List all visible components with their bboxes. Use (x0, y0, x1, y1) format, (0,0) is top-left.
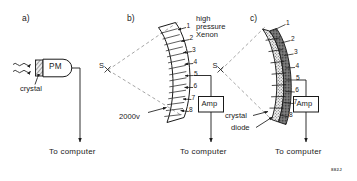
source-marker-c: S (213, 62, 218, 70)
figure-canvas: a) PM crystal To computer b) S high pres… (0, 0, 357, 181)
channel-label-b-2: 2 (190, 35, 194, 42)
source-marker-b-ticks (105, 67, 111, 73)
source-marker-c-ticks (218, 67, 224, 73)
channel-label-b-1: 1 (187, 23, 191, 30)
xray-beam-icon (13, 63, 31, 72)
output-label-a: To computer (49, 148, 96, 156)
channel-label-b-7: 7 (192, 95, 196, 102)
fan-beam-c (221, 26, 270, 118)
panel-label-a: a) (22, 14, 30, 23)
xenon-chamber-cap-bottom (167, 118, 184, 123)
channel-label-c-1: 1 (286, 20, 290, 27)
panel-b-graphics (105, 22, 224, 142)
crystal-block (36, 60, 44, 76)
channel-label-b-8: 8 (189, 107, 193, 114)
xenon-chamber-inner-wall (159, 28, 174, 123)
bias-lead-b (148, 108, 167, 113)
channel-label-c-4: 4 (296, 63, 300, 70)
channel-label-c-6: 6 (295, 87, 299, 94)
crystal-leader-c (253, 112, 268, 116)
output-label-c: To computer (275, 148, 322, 156)
photomultiplier-label: PM (49, 63, 62, 72)
crystal-label-a: crystal (20, 85, 42, 93)
xenon-septa-plates (161, 29, 187, 117)
diode-leader-c (256, 117, 273, 128)
channel-label-b-3: 3 (192, 47, 196, 54)
source-marker-b: S (99, 62, 104, 70)
channel-label-c-5: 5 (296, 75, 300, 82)
panel-a-graphics (13, 59, 80, 142)
channel-label-b-6: 6 (194, 83, 198, 90)
bias-voltage-label: 2000v (119, 113, 140, 121)
channel-label-b-5: 5 (194, 71, 198, 78)
crystal-label-c: crystal (225, 112, 247, 120)
panel-label-c: c) (250, 14, 257, 23)
gas-label-line-3: Xenon (196, 31, 218, 39)
amplifier-label-c: Amp (297, 100, 313, 108)
diode-label-c: diode (231, 124, 250, 132)
channel-label-c-8: 8 (289, 112, 293, 119)
panel-label-b: b) (127, 14, 135, 23)
amplifier-label-b: Amp (202, 100, 218, 108)
channel-label-c-3: 3 (294, 49, 298, 56)
figure-id-code: 882J (331, 168, 342, 173)
xenon-chamber-cap-top (159, 23, 176, 28)
channel-label-b-4: 4 (194, 59, 198, 66)
channel-label-c-2: 2 (291, 36, 295, 43)
output-label-b: To computer (180, 148, 227, 156)
signal-path-a (72, 68, 80, 142)
